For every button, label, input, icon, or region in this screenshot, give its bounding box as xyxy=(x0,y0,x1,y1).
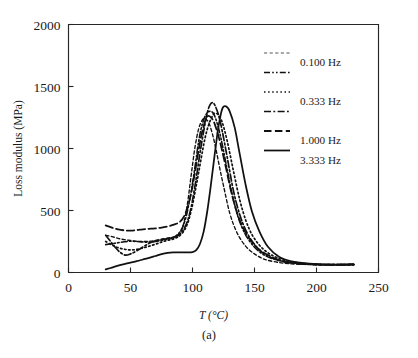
legend-label: 0.100 Hz xyxy=(300,56,341,68)
caption-text: (a) xyxy=(202,328,216,342)
y-tick-label: 0 xyxy=(54,266,61,281)
y-tick-label: 1500 xyxy=(34,80,61,95)
x-tick-label: 100 xyxy=(182,280,203,295)
x-tick-label: 250 xyxy=(368,280,389,295)
data-curve xyxy=(106,103,354,265)
x-tick-label: 200 xyxy=(306,280,327,295)
x-tick-label: 150 xyxy=(244,280,265,295)
y-tick-label: 500 xyxy=(40,204,61,219)
y-tick-label: 1000 xyxy=(34,142,61,157)
y-tick-label: 2000 xyxy=(34,18,61,33)
figure-caption: (a) xyxy=(202,328,216,342)
x-axis-title: T (°C) xyxy=(199,309,228,322)
x-tick-label: 50 xyxy=(124,280,138,295)
legend-label: 3.333 Hz xyxy=(300,154,341,166)
chart-curves xyxy=(106,103,354,270)
x-tick-label: 0 xyxy=(65,280,72,295)
loss-modulus-chart: 0501001502002500500100015002000 Loss mod… xyxy=(0,0,418,358)
figure-panel: 0501001502002500500100015002000 Loss mod… xyxy=(0,0,418,358)
legend-label: 1.000 Hz xyxy=(300,134,341,146)
y-axis-title: Loss modulus (MPa) xyxy=(12,100,25,197)
chart-legend: 0.100 Hz0.333 Hz1.000 Hz3.333 Hz xyxy=(264,53,341,166)
legend-label: 0.333 Hz xyxy=(300,95,341,107)
